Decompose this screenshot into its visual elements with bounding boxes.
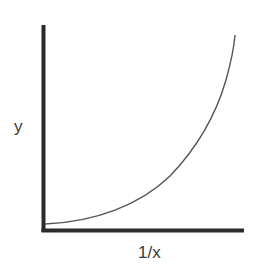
x-axis-label: 1/x: [138, 244, 161, 261]
chart-plot: [0, 0, 256, 267]
y-axis-label: y: [14, 118, 23, 135]
data-curve: [45, 35, 235, 224]
